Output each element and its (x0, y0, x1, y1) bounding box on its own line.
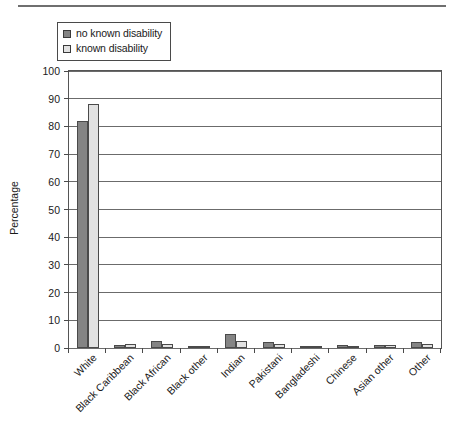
bar-group (114, 71, 136, 348)
x-axis-label: Indian (219, 352, 247, 380)
x-tick (440, 348, 441, 353)
y-tick-label-10: 10 (48, 315, 60, 326)
bar (225, 334, 236, 348)
y-tick-label-70: 70 (48, 149, 60, 160)
bars-layer (69, 71, 441, 348)
y-tick-label-30: 30 (48, 260, 60, 271)
bar (88, 104, 99, 348)
y-tick-label-60: 60 (48, 177, 60, 188)
bar-chart: Percentage 0102030405060708090100 WhiteB… (0, 0, 462, 428)
y-tick-label-100: 100 (42, 66, 60, 77)
bar-group (374, 71, 396, 348)
y-axis-title: Percentage (8, 181, 20, 235)
bar-group (337, 71, 359, 348)
y-tick-label-20: 20 (48, 287, 60, 298)
x-axis-labels: WhiteBlack CaribbeanBlack AfricanBlack o… (68, 352, 440, 428)
y-tick-label-0: 0 (54, 343, 60, 354)
bar (236, 341, 247, 348)
bar-group (225, 71, 247, 348)
y-tick-label-90: 90 (48, 93, 60, 104)
plot-area: 0102030405060708090100 (68, 70, 442, 349)
bar-group (151, 71, 173, 348)
bar-group (411, 71, 433, 348)
y-tick-label-80: 80 (48, 121, 60, 132)
y-tick-label-40: 40 (48, 232, 60, 243)
x-axis-label: White (72, 352, 99, 379)
y-tick-label-50: 50 (48, 204, 60, 215)
bar-group (77, 71, 99, 348)
bar (151, 341, 162, 348)
x-axis-label: Other (407, 352, 433, 378)
x-axis-label: Chinese (324, 352, 359, 387)
bar-group (188, 71, 210, 348)
bar-group (263, 71, 285, 348)
bar (77, 121, 88, 348)
bar-group (300, 71, 322, 348)
